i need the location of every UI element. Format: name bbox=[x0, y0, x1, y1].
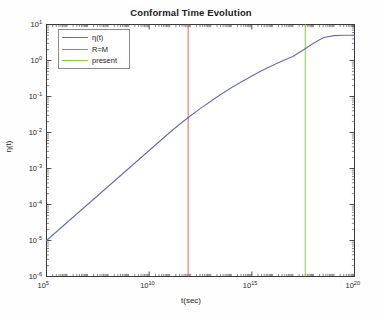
x-tick-label: 1010 bbox=[140, 281, 155, 290]
legend-color-swatch bbox=[62, 49, 88, 50]
legend-item[interactable]: R=M bbox=[59, 44, 129, 56]
legend-item[interactable]: η(t) bbox=[59, 32, 129, 44]
y-tick-label: 10-1 bbox=[21, 92, 42, 101]
x-axis-label: t(sec) bbox=[0, 296, 382, 305]
legend-color-swatch bbox=[62, 37, 88, 38]
y-tick-label: 101 bbox=[21, 20, 42, 29]
y-tick-label: 10-6 bbox=[21, 272, 42, 281]
legend-color-swatch bbox=[62, 60, 88, 61]
figure-canvas: Conformal Time Evolution 105101010151020… bbox=[0, 0, 382, 320]
y-tick-label: 10-2 bbox=[21, 128, 42, 137]
legend-box[interactable]: η(t)R=Mpresent bbox=[58, 29, 130, 69]
legend-item[interactable]: present bbox=[59, 55, 129, 67]
legend-item-label: present bbox=[92, 56, 117, 65]
x-tick-label: 1015 bbox=[243, 281, 258, 290]
y-tick-label: 100 bbox=[21, 56, 42, 65]
y-tick-label: 10-4 bbox=[21, 200, 42, 209]
legend-item-label: R=M bbox=[92, 45, 108, 54]
x-tick-label: 105 bbox=[38, 281, 49, 290]
y-tick-label: 10-3 bbox=[21, 164, 42, 173]
y-tick-label: 10-5 bbox=[21, 236, 42, 245]
y-axis-label: η(t) bbox=[4, 127, 13, 167]
legend-item-label: η(t) bbox=[92, 33, 103, 42]
x-tick-label: 1020 bbox=[346, 281, 361, 290]
